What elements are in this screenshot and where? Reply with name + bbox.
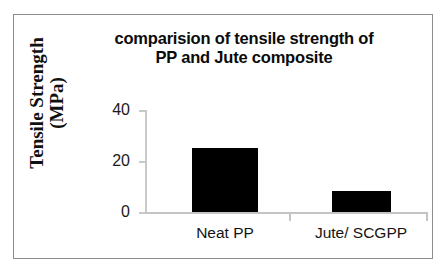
x-axis-line bbox=[139, 212, 427, 214]
y-axis-line bbox=[145, 110, 147, 212]
y-tick-label-20: 20 bbox=[112, 152, 130, 170]
y-tick-mark-40: 40 bbox=[139, 110, 145, 112]
bar-neat-pp bbox=[192, 148, 258, 212]
y-tick-label-0: 0 bbox=[121, 203, 130, 221]
x-category-label-neat-pp: Neat PP bbox=[157, 224, 293, 242]
y-axis-title-line-1: Tensile Strength bbox=[27, 37, 47, 168]
x-separator-tick-mid bbox=[289, 212, 291, 221]
figure-frame: comparision of tensile strength of PP an… bbox=[13, 14, 433, 259]
y-tick-mark-0: 0 bbox=[139, 212, 145, 214]
x-category-label-jute-scgpp: Jute/ SCGPP bbox=[293, 224, 429, 242]
chart-title-line-2: PP and Jute composite bbox=[58, 48, 430, 67]
bar-jute-scgpp bbox=[332, 191, 391, 212]
chart-title: comparision of tensile strength of PP an… bbox=[58, 29, 430, 67]
y-tick-label-40: 40 bbox=[112, 101, 130, 119]
chart-title-line-1: comparision of tensile strength of bbox=[58, 29, 430, 48]
y-tick-mark-20: 20 bbox=[139, 161, 145, 163]
plot-area: 40 20 0 bbox=[145, 110, 427, 212]
x-separator-tick-end bbox=[426, 212, 428, 221]
